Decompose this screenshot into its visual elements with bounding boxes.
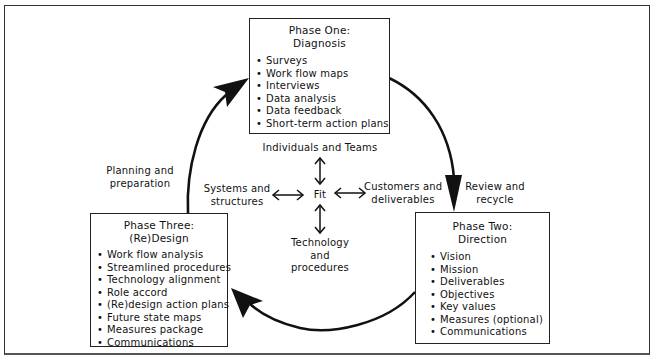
phase-three-title: Phase Three: (Re)Design bbox=[91, 219, 227, 245]
label-line: procedures bbox=[280, 262, 360, 275]
label-line: Planning and bbox=[103, 165, 177, 178]
label-line: recycle bbox=[460, 194, 530, 207]
phase-one-box: Phase One: Diagnosis Surveys Work flow m… bbox=[249, 18, 390, 134]
label-line: Systems and bbox=[202, 183, 272, 196]
list-item: Objectives bbox=[430, 289, 549, 302]
fit-top-label: Individuals and Teams bbox=[260, 142, 380, 155]
phase-title-line2: Direction bbox=[416, 233, 549, 246]
fit-bottom-label: Technology and procedures bbox=[280, 237, 360, 275]
phase-one-title: Phase One: Diagnosis bbox=[250, 24, 389, 50]
list-item: Communications bbox=[430, 326, 549, 339]
phase-one-items: Surveys Work flow maps Interviews Data a… bbox=[250, 55, 389, 130]
list-item: Streamlined procedures bbox=[97, 262, 227, 275]
phase-two-items: Vision Mission Deliverables Objectives K… bbox=[416, 251, 549, 339]
list-item: Mission bbox=[430, 264, 549, 277]
fit-center-label: Fit bbox=[305, 189, 335, 202]
list-item: Short-term action plans bbox=[256, 118, 389, 131]
list-item: Interviews bbox=[256, 80, 389, 93]
phase-two-box: Phase Two: Direction Vision Mission Deli… bbox=[415, 212, 550, 344]
fit-right-label: Customers and deliverables bbox=[364, 181, 442, 206]
list-item: Surveys bbox=[256, 55, 389, 68]
label-line: Technology bbox=[280, 237, 360, 250]
list-item: Measures package bbox=[97, 324, 227, 337]
label-line: Review and bbox=[460, 181, 530, 194]
arrow-direction-to-redesign bbox=[248, 292, 415, 330]
phase-title-line2: (Re)Design bbox=[91, 232, 227, 245]
label-line: Customers and bbox=[364, 181, 442, 194]
label-line: deliverables bbox=[364, 194, 442, 207]
arrowhead-left-icon bbox=[231, 288, 263, 318]
list-item: (Re)design action plans bbox=[97, 299, 227, 312]
phase-title-line2: Diagnosis bbox=[250, 37, 389, 50]
arrow-diagnosis-to-direction bbox=[389, 78, 454, 178]
phase-three-items: Work flow analysis Streamlined procedure… bbox=[91, 249, 227, 349]
phase-two-title: Phase Two: Direction bbox=[416, 220, 549, 246]
list-item: Deliverables bbox=[430, 276, 549, 289]
list-item: Vision bbox=[430, 251, 549, 264]
planning-preparation-label: Planning and preparation bbox=[103, 165, 177, 190]
list-item: Data analysis bbox=[256, 93, 389, 106]
review-recycle-label: Review and recycle bbox=[460, 181, 530, 206]
fit-left-label: Systems and structures bbox=[202, 183, 272, 208]
label-line: and bbox=[280, 250, 360, 263]
list-item: Key values bbox=[430, 301, 549, 314]
phase-title-line1: Phase Three: bbox=[91, 219, 227, 232]
list-item: Work flow analysis bbox=[97, 249, 227, 262]
label-line: structures bbox=[202, 196, 272, 209]
list-item: Work flow maps bbox=[256, 68, 389, 81]
phase-title-line1: Phase One: bbox=[250, 24, 389, 37]
list-item: Data feedback bbox=[256, 105, 389, 118]
label-line: preparation bbox=[103, 178, 177, 191]
phase-title-line1: Phase Two: bbox=[416, 220, 549, 233]
phase-three-box: Phase Three: (Re)Design Work flow analys… bbox=[90, 213, 228, 347]
list-item: Technology alignment bbox=[97, 274, 227, 287]
list-item: Communications bbox=[97, 337, 227, 350]
list-item: Future state maps bbox=[97, 312, 227, 325]
list-item: Measures (optional) bbox=[430, 314, 549, 327]
list-item: Role accord bbox=[97, 287, 227, 300]
